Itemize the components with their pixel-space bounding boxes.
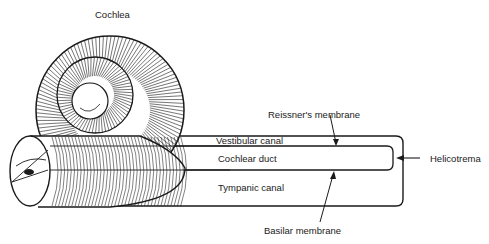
label-cochlea: Cochlea bbox=[95, 9, 131, 20]
cochlea-diagram: Cochlea Vestibular canal Cochlear duct T… bbox=[0, 0, 489, 244]
basilar-arrow bbox=[320, 175, 333, 222]
label-tympanic-canal: Tympanic canal bbox=[218, 182, 284, 193]
label-vestibular-canal: Vestibular canal bbox=[216, 135, 283, 146]
label-basilar-membrane: Basilar membrane bbox=[264, 225, 341, 236]
label-reissners-membrane: Reissner's membrane bbox=[268, 109, 360, 120]
label-helicotrema: Helicotrema bbox=[430, 153, 481, 164]
apex-whorl bbox=[72, 83, 108, 119]
organ-of-corti bbox=[24, 169, 34, 175]
label-cochlear-duct: Cochlear duct bbox=[218, 153, 277, 164]
